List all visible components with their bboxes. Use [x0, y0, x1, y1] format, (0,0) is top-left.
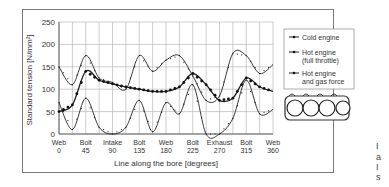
series-1-point — [206, 100, 207, 101]
series-0-point — [196, 76, 199, 79]
series-2-point — [259, 113, 260, 114]
series-2-point — [139, 100, 140, 101]
legend: Cold engineHot engine(full throttle)Hot … — [284, 29, 354, 89]
series-0-point — [214, 94, 217, 97]
series-0-point — [169, 89, 172, 92]
series-0-point — [245, 77, 248, 80]
series-0-point — [223, 98, 226, 101]
series-2-point — [134, 109, 135, 110]
series-2-point — [103, 129, 104, 130]
series-0-point — [67, 106, 70, 109]
gasket-bore-2 — [303, 100, 319, 116]
series-0-point — [182, 81, 185, 84]
series-0-point — [80, 81, 83, 84]
series-0-point — [267, 89, 270, 92]
y-tick-label: 200 — [42, 40, 56, 49]
series-2-point — [125, 127, 126, 128]
series-1-point — [139, 55, 140, 56]
series-2-point — [183, 104, 184, 105]
x-tick-label: Web — [266, 139, 280, 146]
side-text-2: a — [376, 152, 381, 162]
series-2-point — [206, 133, 207, 134]
series-0-point — [209, 89, 212, 92]
series-2-point — [76, 118, 77, 119]
x-tick-label: 180 — [160, 147, 172, 154]
series-1-point — [201, 92, 202, 93]
series-2-point — [170, 106, 171, 107]
series-2-point — [63, 111, 64, 112]
series-2-point — [255, 102, 256, 103]
series-1-point — [197, 83, 198, 84]
x-tick-label: 225 — [187, 147, 199, 154]
series-1-point — [63, 72, 64, 73]
series-0-point — [205, 83, 208, 86]
series-2-point — [174, 110, 175, 111]
series-1-point — [192, 75, 193, 76]
x-tick-label: Web — [52, 139, 66, 146]
series-0-point — [263, 87, 266, 90]
legend-label: and gas force — [302, 78, 345, 86]
series-0-point — [71, 103, 74, 106]
series-2-point — [241, 92, 242, 93]
series-1-point — [156, 67, 157, 68]
series-1-point — [174, 56, 175, 57]
legend-marker-dot — [293, 36, 296, 39]
series-0-point — [62, 108, 65, 111]
series-1-point — [161, 63, 162, 64]
series-1-point — [259, 73, 260, 74]
series-1-point — [58, 66, 59, 67]
x-tick-label: Bolt — [187, 139, 199, 146]
x-tick-label: 90 — [109, 147, 117, 154]
series-1-point — [125, 89, 126, 90]
series-1-point — [81, 65, 82, 66]
series-2-point — [58, 102, 59, 103]
x-ticks: Web0Bolt45Intake90Bolt135Web180Bolt225Ex… — [52, 139, 280, 154]
series-0-point — [165, 90, 168, 93]
series-1-point — [263, 70, 264, 71]
series-0-point — [142, 89, 145, 92]
y-axis-label: Standard tension [N/mm²] — [25, 34, 34, 125]
series-2-point — [223, 128, 224, 129]
series-1-point — [237, 54, 238, 55]
series-2-point — [148, 121, 149, 122]
series-2-point — [67, 120, 68, 121]
series-1-point — [152, 71, 153, 72]
x-tick-label: 135 — [133, 147, 145, 154]
y-tick-label: 100 — [42, 85, 56, 94]
series-0-point — [236, 90, 239, 93]
series-0-point — [138, 88, 141, 91]
y-tick-label: 150 — [42, 63, 56, 72]
x-axis-label: Line along the bore [degrees] — [114, 159, 218, 168]
side-text-3: I — [376, 162, 379, 172]
series-0-point — [187, 77, 190, 80]
series-2-point — [161, 112, 162, 113]
series-1-point — [130, 77, 131, 78]
grid — [59, 22, 273, 134]
series-2-point — [214, 133, 215, 134]
series-1-point — [85, 55, 86, 56]
y-tick-label: 0 — [51, 130, 56, 139]
x-tick-label: 45 — [82, 147, 90, 154]
series-1-point — [76, 74, 77, 75]
series-1-point — [143, 60, 144, 61]
series-0-point — [174, 87, 177, 90]
series-1-point — [183, 62, 184, 63]
x-tick-label: Web — [159, 139, 173, 146]
gasket-bore-1 — [287, 100, 303, 116]
series-2-point — [112, 133, 113, 134]
series-1-point — [148, 65, 149, 66]
legend-marker-dot — [293, 72, 296, 75]
x-tick-label: 0 — [57, 147, 61, 154]
series-1-point — [72, 84, 73, 85]
series-1-point — [210, 98, 211, 99]
series-2-point — [268, 110, 269, 111]
series-1-point — [67, 78, 68, 79]
gasket-illustration — [285, 94, 350, 120]
y-tick-label: 50 — [46, 108, 55, 117]
series-1-point — [232, 53, 233, 54]
y-ticks: 050100150200250 — [42, 18, 56, 139]
series-1-point — [228, 67, 229, 68]
series-0-point — [200, 80, 203, 83]
series-2-point — [81, 108, 82, 109]
x-tick-label: Exhaust — [207, 139, 232, 146]
